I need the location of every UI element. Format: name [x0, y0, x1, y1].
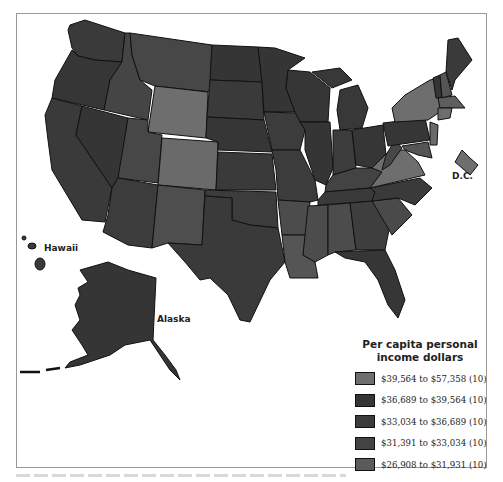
state-michigan	[337, 85, 368, 130]
state-connecticut	[438, 108, 452, 120]
state-new-jersey	[430, 122, 438, 145]
state-pennsylvania	[383, 118, 430, 146]
state-new-mexico	[152, 185, 205, 248]
legend-label: $36,689 to $39,564 (10)	[381, 395, 487, 405]
state-massachusetts	[438, 96, 465, 108]
state-south-dakota	[207, 80, 264, 120]
legend-item: $39,564 to $57,358 (10)	[355, 368, 485, 390]
legend-label: $31,391 to $33,034 (10)	[381, 438, 487, 448]
legend-swatch	[355, 372, 375, 385]
legend-item: $31,391 to $33,034 (10)	[355, 433, 485, 455]
legend-label: $33,034 to $36,689 (10)	[381, 417, 487, 427]
legend-swatch	[355, 415, 375, 428]
legend-item: $36,689 to $39,564 (10)	[355, 390, 485, 412]
legend-item: $33,034 to $36,689 (10)	[355, 411, 485, 433]
state-mississippi	[303, 205, 328, 262]
legend-swatch	[355, 458, 375, 471]
state-colorado	[158, 138, 218, 190]
state-wyoming	[148, 86, 208, 138]
alaska-aleutians	[20, 368, 60, 372]
figure-caption-faded	[16, 474, 346, 477]
state-kansas	[216, 152, 276, 190]
legend: Per capita personal income dollars $39,5…	[355, 338, 485, 476]
legend-item: $26,908 to $31,931 (10)	[355, 454, 485, 476]
alaska-label: Alaska	[157, 314, 191, 324]
legend-label: $39,564 to $57,358 (10)	[381, 374, 487, 384]
state-hawaii	[22, 236, 45, 270]
legend-title-line2: income dollars	[355, 351, 485, 364]
state-north-dakota	[210, 45, 262, 82]
legend-swatch	[355, 437, 375, 450]
dc-label: D.C.	[452, 171, 473, 181]
legend-swatch	[355, 394, 375, 407]
state-florida	[335, 250, 405, 318]
hawaii-label: Hawaii	[44, 243, 78, 253]
legend-label: $26,908 to $31,931 (10)	[381, 460, 487, 470]
legend-title-line1: Per capita personal	[355, 338, 485, 351]
state-maine	[446, 38, 472, 90]
